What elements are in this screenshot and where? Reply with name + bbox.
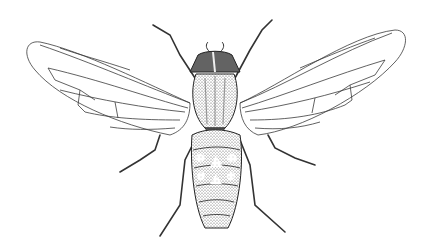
antennae bbox=[206, 42, 223, 52]
left-wing bbox=[27, 42, 190, 135]
right-wing bbox=[240, 30, 406, 135]
fly-illustration bbox=[0, 0, 429, 251]
illustration-canvas: Fly (Diptera) dorsal view line drawing bbox=[0, 0, 429, 251]
abdomen bbox=[191, 130, 241, 228]
